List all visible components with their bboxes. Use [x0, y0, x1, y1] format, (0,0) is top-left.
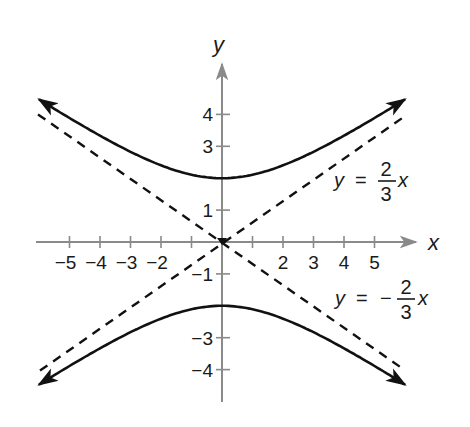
x-tick-label: 3 — [308, 252, 319, 273]
x-tick-label: 2 — [278, 252, 289, 273]
x-tick-label: 4 — [339, 252, 350, 273]
equation-label-negative: y = − 2 3 x — [333, 276, 429, 323]
eq1-numerator: 2 — [380, 158, 391, 180]
x-tick-label: 5 — [369, 252, 380, 273]
axes: −5−4−3−22345 −4−3−1134 x y — [36, 32, 440, 402]
y-axis-label: y — [211, 32, 226, 57]
y-tick-label: −1 — [191, 264, 213, 285]
equation-label-positive: y = 2 3 x — [332, 158, 409, 205]
x-tick-label: −2 — [146, 252, 168, 273]
eq2-denominator: 3 — [400, 301, 411, 323]
eq2-equals: = — [356, 287, 368, 309]
y-tick-label: 1 — [202, 200, 213, 221]
x-tick-label: −5 — [55, 252, 77, 273]
eq1-denominator: 3 — [380, 183, 391, 205]
eq2-y: y — [333, 287, 346, 309]
y-tick-label: −3 — [191, 328, 213, 349]
eq1-equals: = — [355, 169, 367, 191]
x-tick-label: −4 — [85, 252, 107, 273]
hyperbola-chart: −5−4−3−22345 −4−3−1134 x y y = 2 3 x y =… — [0, 0, 470, 427]
eq1-x: x — [397, 169, 409, 191]
y-tick-label: 4 — [202, 104, 213, 125]
x-tick-label: −3 — [116, 252, 138, 273]
eq2-numerator: 2 — [400, 276, 411, 298]
eq2-minus: − — [380, 287, 392, 309]
eq1-y: y — [332, 169, 345, 191]
y-tick-label: 3 — [202, 136, 213, 157]
x-axis-label: x — [427, 230, 440, 255]
eq2-x: x — [417, 287, 429, 309]
y-tick-label: −4 — [191, 360, 213, 381]
